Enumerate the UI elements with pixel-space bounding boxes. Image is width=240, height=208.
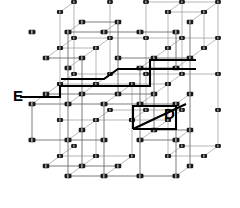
node-specular: [145, 109, 146, 112]
lattice-node: [179, 36, 185, 40]
lattice-node: [215, 144, 221, 148]
node-specular: [117, 92, 118, 95]
lattice-node: [143, 36, 149, 40]
node-specular: [59, 46, 60, 49]
lattice-node: [79, 164, 86, 168]
node-specular: [167, 46, 168, 49]
lattice-node: [165, 10, 171, 14]
lattice-node: [143, 0, 149, 4]
lattice-node: [137, 138, 144, 143]
lattice-node: [137, 174, 144, 179]
lattice-node: [179, 144, 185, 148]
node-specular: [67, 30, 68, 34]
node-specular: [167, 82, 168, 85]
lattice-node: [71, 72, 77, 76]
lattice-node: [71, 36, 77, 40]
node-specular: [67, 174, 68, 178]
node-specular: [167, 10, 168, 13]
node-specular: [189, 128, 190, 131]
lattice-node: [201, 154, 207, 158]
lattice-node: [29, 102, 36, 107]
lattice-node: [101, 102, 108, 107]
lattice-node: [107, 36, 113, 40]
node-specular: [81, 92, 82, 95]
node-specular: [217, 145, 218, 148]
path-E: [20, 60, 196, 97]
node-specular: [203, 46, 204, 49]
node-specular: [175, 30, 176, 34]
node-specular: [175, 174, 176, 178]
lattice-node: [187, 20, 194, 24]
node-specular: [217, 37, 218, 40]
lattice-node: [129, 154, 135, 158]
node-specular: [181, 109, 182, 112]
lattice-node: [187, 128, 194, 132]
path-lower: [133, 104, 186, 129]
node-specular: [217, 73, 218, 76]
lattice-node: [65, 30, 72, 35]
lattice-node: [43, 164, 50, 168]
node-specular: [153, 92, 154, 95]
lattice-node: [179, 0, 185, 4]
lattice-node: [137, 30, 144, 35]
node-specular: [67, 66, 68, 70]
lattice-node: [115, 164, 122, 168]
lattice-node: [179, 72, 185, 76]
lattice-node: [201, 10, 207, 14]
node-specular: [95, 46, 96, 49]
node-specular: [81, 20, 82, 23]
node-specular: [175, 138, 176, 142]
lattice-node: [93, 46, 99, 50]
lattice-node: [79, 56, 86, 60]
lattice-node: [65, 66, 72, 71]
node-specular: [59, 154, 60, 157]
lattice-node: [173, 138, 180, 143]
node-specular: [181, 1, 182, 4]
lattice-node: [215, 108, 221, 112]
lattice-node: [101, 174, 108, 179]
node-specular: [103, 30, 104, 34]
lattice-node: [93, 118, 99, 122]
lattice-node: [79, 92, 86, 96]
lattice-figure: E D: [0, 0, 240, 208]
lattice-node: [65, 174, 72, 179]
lattice-node: [215, 0, 221, 4]
node-specular: [95, 118, 96, 121]
lattice-node: [173, 30, 180, 35]
lattice-node: [115, 92, 122, 96]
node-specular: [109, 109, 110, 112]
lattice-node: [215, 36, 221, 40]
node-specular: [73, 145, 74, 148]
label-d: D: [164, 106, 175, 121]
node-specular: [139, 138, 140, 142]
lattice-node: [173, 174, 180, 179]
node-specular: [103, 102, 104, 106]
lattice-node: [107, 108, 113, 112]
lattice-node: [115, 20, 122, 24]
node-specular: [81, 56, 82, 59]
lattice-node: [179, 108, 185, 112]
node-specular: [73, 73, 74, 76]
node-specular: [45, 92, 46, 95]
lattice-node: [187, 92, 194, 96]
node-specular: [145, 73, 146, 76]
lattice-node: [165, 154, 171, 158]
node-specular: [73, 37, 74, 40]
node-specular: [109, 1, 110, 4]
node-specular: [181, 145, 182, 148]
lattice-node: [165, 46, 171, 50]
lattice-node: [29, 30, 36, 35]
node-specular: [167, 154, 168, 157]
node-specular: [139, 174, 140, 178]
node-specular: [189, 92, 190, 95]
node-specular: [145, 1, 146, 4]
lattice-node: [215, 72, 221, 76]
node-specular: [109, 37, 110, 40]
node-specular: [189, 20, 190, 23]
lattice-node: [151, 92, 158, 96]
node-specular: [131, 154, 132, 157]
lattice-node: [115, 56, 122, 60]
node-specular: [181, 37, 182, 40]
lattice-node: [101, 138, 108, 143]
lattice-node: [43, 92, 50, 96]
